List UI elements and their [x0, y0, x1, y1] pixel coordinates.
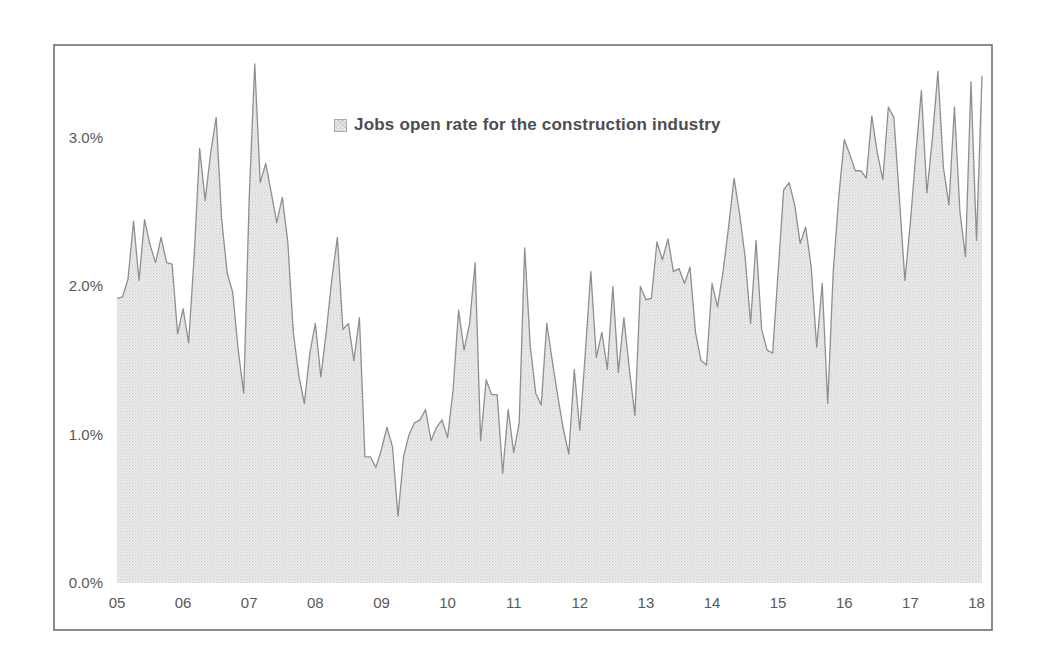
x-tick-label: 05	[109, 594, 126, 611]
x-tick-label: 08	[307, 594, 324, 611]
legend-swatch-icon	[334, 119, 347, 132]
x-tick-label: 14	[704, 594, 721, 611]
x-tick-label: 15	[770, 594, 787, 611]
x-tick-label: 17	[902, 594, 919, 611]
x-tick-label: 13	[638, 594, 655, 611]
y-tick-label: 2.0%	[69, 277, 103, 294]
y-tick-label: 1.0%	[69, 426, 103, 443]
chart-legend: Jobs open rate for the construction indu…	[334, 115, 721, 135]
x-tick-label: 07	[241, 594, 258, 611]
chart-canvas: 0.0%1.0%2.0%3.0%050607080910111213141516…	[0, 0, 1048, 668]
x-tick-label: 06	[175, 594, 192, 611]
x-tick-label: 18	[968, 594, 985, 611]
x-tick-label: 11	[506, 594, 522, 611]
x-tick-label: 10	[439, 594, 456, 611]
x-tick-label: 09	[373, 594, 390, 611]
x-tick-label: 12	[571, 594, 588, 611]
x-tick-label: 16	[836, 594, 853, 611]
area-series-fill	[117, 64, 982, 583]
legend-label: Jobs open rate for the construction indu…	[354, 115, 721, 135]
y-tick-label: 3.0%	[69, 129, 103, 146]
area-chart: 0.0%1.0%2.0%3.0%050607080910111213141516…	[0, 0, 1048, 668]
y-tick-label: 0.0%	[69, 574, 103, 591]
